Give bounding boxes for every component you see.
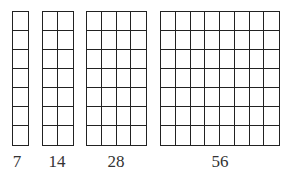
- unit-square: [87, 88, 102, 107]
- unit-square: [191, 88, 206, 107]
- unit-square: [161, 31, 176, 50]
- unit-square: [191, 12, 206, 31]
- unit-square: [235, 12, 250, 31]
- unit-square: [87, 69, 102, 88]
- unit-square: [117, 31, 132, 50]
- unit-square: [205, 50, 220, 69]
- unit-square: [250, 12, 265, 31]
- unit-square: [43, 69, 58, 88]
- unit-square: [235, 31, 250, 50]
- unit-square: [220, 69, 235, 88]
- label-28: 28: [96, 152, 136, 172]
- unit-square: [13, 88, 28, 107]
- unit-square: [250, 126, 265, 145]
- unit-square: [161, 88, 176, 107]
- unit-square: [235, 88, 250, 107]
- unit-square: [131, 31, 146, 50]
- unit-square: [205, 88, 220, 107]
- unit-square: [264, 69, 279, 88]
- unit-square: [117, 12, 132, 31]
- unit-square: [58, 31, 73, 50]
- unit-square: [102, 107, 117, 126]
- unit-square: [205, 31, 220, 50]
- unit-square: [250, 107, 265, 126]
- unit-square: [235, 126, 250, 145]
- unit-square: [264, 12, 279, 31]
- unit-square: [117, 69, 132, 88]
- unit-square: [102, 31, 117, 50]
- unit-square: [102, 69, 117, 88]
- unit-square: [87, 126, 102, 145]
- unit-square: [176, 50, 191, 69]
- unit-square: [176, 126, 191, 145]
- unit-square: [58, 107, 73, 126]
- unit-square: [43, 50, 58, 69]
- unit-square: [205, 12, 220, 31]
- unit-square: [13, 50, 28, 69]
- unit-square: [161, 107, 176, 126]
- unit-square: [205, 107, 220, 126]
- unit-square: [117, 50, 132, 69]
- unit-square: [87, 50, 102, 69]
- unit-square: [250, 50, 265, 69]
- unit-square: [58, 69, 73, 88]
- unit-square: [220, 126, 235, 145]
- unit-square: [191, 69, 206, 88]
- unit-square: [176, 31, 191, 50]
- unit-square: [43, 12, 58, 31]
- grid-14-squares: [42, 11, 74, 146]
- unit-square: [87, 107, 102, 126]
- unit-square: [161, 69, 176, 88]
- unit-square: [13, 31, 28, 50]
- label-7: 7: [0, 152, 37, 172]
- unit-square: [191, 107, 206, 126]
- unit-square: [58, 126, 73, 145]
- unit-square: [43, 88, 58, 107]
- unit-square: [176, 69, 191, 88]
- unit-square: [117, 107, 132, 126]
- unit-square: [161, 12, 176, 31]
- unit-square: [235, 107, 250, 126]
- unit-square: [117, 126, 132, 145]
- unit-square: [264, 88, 279, 107]
- unit-square: [176, 12, 191, 31]
- label-56: 56: [200, 152, 240, 172]
- grid-28-squares: [86, 11, 147, 146]
- unit-square: [87, 31, 102, 50]
- unit-square: [161, 50, 176, 69]
- unit-square: [205, 69, 220, 88]
- unit-square: [13, 126, 28, 145]
- unit-square: [176, 88, 191, 107]
- unit-square: [220, 107, 235, 126]
- unit-square: [264, 107, 279, 126]
- unit-square: [131, 50, 146, 69]
- unit-square: [191, 126, 206, 145]
- unit-square: [220, 12, 235, 31]
- unit-square: [250, 88, 265, 107]
- unit-square: [220, 50, 235, 69]
- unit-square: [161, 126, 176, 145]
- unit-square: [191, 50, 206, 69]
- unit-square: [264, 50, 279, 69]
- unit-square: [58, 12, 73, 31]
- unit-square: [13, 69, 28, 88]
- unit-square: [43, 31, 58, 50]
- unit-square: [264, 31, 279, 50]
- unit-square: [43, 107, 58, 126]
- unit-square: [102, 12, 117, 31]
- grid-56-squares: [160, 11, 280, 146]
- unit-square: [176, 107, 191, 126]
- unit-square: [250, 69, 265, 88]
- unit-square: [131, 12, 146, 31]
- unit-square: [102, 126, 117, 145]
- unit-square: [117, 88, 132, 107]
- unit-square: [235, 50, 250, 69]
- unit-square: [131, 88, 146, 107]
- unit-square: [58, 88, 73, 107]
- label-14: 14: [37, 152, 77, 172]
- unit-square: [58, 50, 73, 69]
- unit-square: [131, 107, 146, 126]
- unit-square: [13, 12, 28, 31]
- grid-7-squares: [12, 11, 29, 146]
- unit-square: [131, 69, 146, 88]
